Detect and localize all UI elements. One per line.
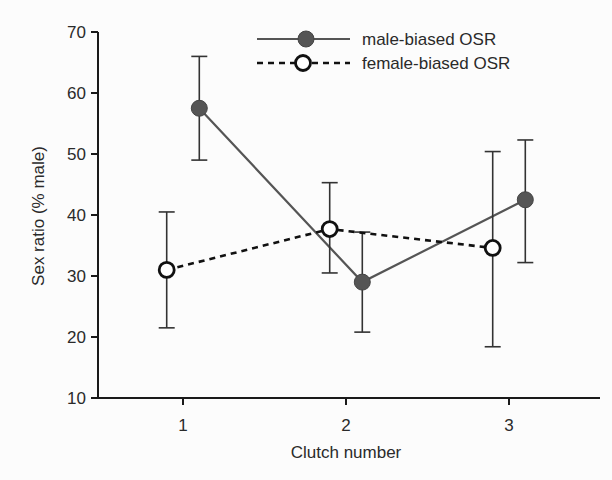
data-point-open (159, 262, 174, 277)
series-female-biased (159, 152, 501, 347)
series-male-biased (191, 56, 533, 332)
sex-ratio-chart: 10203040506070123 male-biased OSRfemale-… (0, 0, 612, 480)
y-tick-label: 10 (67, 389, 86, 408)
y-axis-label: Sex ratio (% male) (29, 146, 48, 286)
legend-marker-filled (298, 31, 314, 47)
y-tick-label: 40 (67, 206, 86, 225)
legend: male-biased OSRfemale-biased OSR (257, 30, 510, 73)
x-axis-label: Clutch number (291, 443, 402, 462)
data-point-filled (191, 100, 207, 116)
data-point-open (485, 240, 500, 255)
y-tick-label: 30 (67, 267, 86, 286)
y-tick-label: 60 (67, 84, 86, 103)
data-point-open (322, 222, 337, 237)
legend-label: female-biased OSR (362, 54, 510, 73)
x-tick-label: 2 (341, 416, 350, 435)
y-tick-label: 20 (67, 328, 86, 347)
x-tick-label: 3 (504, 416, 513, 435)
y-tick-label: 50 (67, 145, 86, 164)
y-tick-label: 70 (67, 23, 86, 42)
series-layer (159, 56, 534, 346)
legend-label: male-biased OSR (362, 30, 496, 49)
legend-marker-open (296, 56, 311, 71)
data-point-filled (517, 192, 533, 208)
x-tick-label: 1 (178, 416, 187, 435)
data-point-filled (354, 274, 370, 290)
